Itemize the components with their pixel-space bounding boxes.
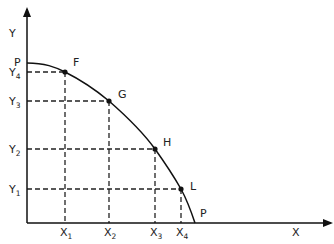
guide-lines (27, 72, 181, 223)
point-f (62, 69, 67, 74)
y-tick-1: Y1 (8, 183, 21, 198)
point-label-g: G (118, 88, 127, 101)
point-h (152, 146, 157, 151)
x-tick-3: X3 (150, 226, 163, 241)
y-axis-label: Y (8, 27, 16, 40)
point-g (106, 98, 111, 103)
point-label-f: F (73, 56, 79, 69)
curve-label-bottom: P (200, 207, 207, 220)
point-label-h: H (163, 136, 171, 149)
point-l (178, 186, 183, 191)
point-label-l: L (190, 180, 197, 193)
x-axis-label: X (292, 226, 300, 239)
x-tick-4: X4 (176, 226, 189, 241)
ppf-diagram: Y X P P F G H L Y4 Y3 Y2 Y1 X1 X2 X3 X4 (0, 0, 334, 244)
y-tick-2: Y2 (8, 143, 21, 158)
y-tick-3: Y3 (8, 95, 21, 110)
x-tick-1: X1 (60, 226, 73, 241)
x-tick-2: X2 (104, 226, 117, 241)
